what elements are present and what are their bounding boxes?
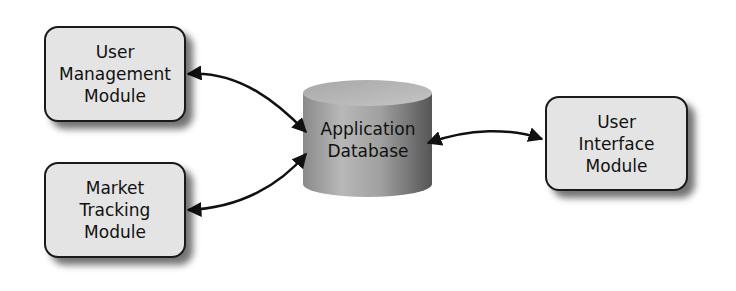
market-tracking-module-label: Market Tracking Module <box>80 177 151 243</box>
edge-db-uim <box>428 131 542 143</box>
user-interface-module-box: User Interface Module <box>545 96 688 191</box>
diagram-canvas: User Management Module Market Tracking M… <box>0 0 736 291</box>
user-interface-module-label: User Interface Module <box>578 111 654 177</box>
market-tracking-module-box: Market Tracking Module <box>44 162 186 258</box>
application-database-label: Application Database <box>303 118 433 162</box>
user-management-module-box: User Management Module <box>44 26 186 122</box>
edge-mtm-db <box>188 154 306 210</box>
user-management-module-label: User Management Module <box>59 41 171 107</box>
edge-umm-db <box>188 74 306 132</box>
